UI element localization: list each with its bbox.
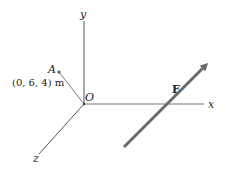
force-diagram: y x z O A (0, 6, 4) m F	[0, 0, 226, 169]
y-axis-label: y	[79, 8, 87, 21]
point-a-label: A	[47, 63, 56, 76]
x-axis-label: x	[208, 98, 215, 111]
z-axis-label: z	[32, 152, 39, 165]
point-a-dot	[57, 70, 60, 73]
force-vector	[124, 65, 206, 147]
origin-label: O	[85, 91, 94, 104]
force-label: F	[172, 83, 180, 96]
point-a-coords: (0, 6, 4) m	[12, 77, 65, 88]
z-axis	[39, 104, 84, 154]
diagram-canvas: y x z O A (0, 6, 4) m F	[0, 0, 226, 169]
